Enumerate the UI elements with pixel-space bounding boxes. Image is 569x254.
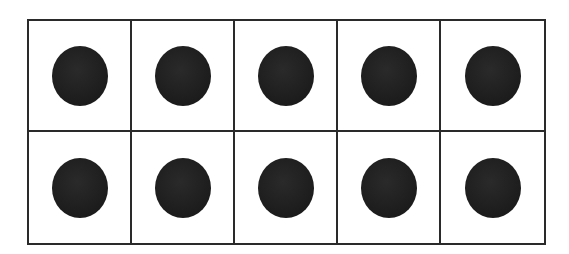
counter-dot-icon (258, 46, 314, 106)
ten-frame-cell (132, 21, 235, 132)
ten-frame-cell (235, 21, 338, 132)
counter-dot-icon (361, 158, 417, 218)
counter-dot-icon (52, 158, 108, 218)
ten-frame-cell (29, 132, 132, 243)
ten-frame-cell (132, 132, 235, 243)
counter-dot-icon (155, 46, 211, 106)
counter-dot-icon (155, 158, 211, 218)
counter-dot-icon (465, 46, 521, 106)
ten-frame-cell (338, 132, 441, 243)
counter-dot-icon (52, 46, 108, 106)
ten-frame-cell (441, 21, 544, 132)
counter-dot-icon (465, 158, 521, 218)
ten-frame (27, 19, 546, 245)
ten-frame-cell (235, 132, 338, 243)
counter-dot-icon (258, 158, 314, 218)
counter-dot-icon (361, 46, 417, 106)
ten-frame-cell (338, 21, 441, 132)
ten-frame-cell (441, 132, 544, 243)
ten-frame-cell (29, 21, 132, 132)
